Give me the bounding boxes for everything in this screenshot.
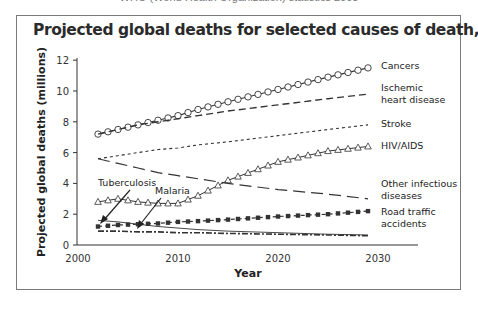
square-marker (256, 216, 260, 220)
circle-marker (245, 94, 251, 100)
x-tick-label: 2030 (365, 253, 390, 264)
square-marker (286, 214, 290, 218)
circle-marker (215, 101, 221, 107)
series-lines (95, 65, 372, 236)
triangle-marker (205, 187, 212, 193)
circle-marker (285, 84, 291, 90)
square-marker (106, 224, 110, 228)
y-tick-label: 4 (63, 178, 69, 189)
square-marker (206, 218, 210, 222)
square-marker (216, 218, 220, 222)
square-marker (266, 215, 270, 219)
y-tick-label: 10 (56, 86, 69, 97)
circle-marker (255, 91, 261, 97)
circle-marker (225, 99, 231, 105)
x-axis-label: Year (233, 267, 262, 280)
circle-marker (235, 96, 241, 102)
circle-marker (315, 76, 321, 82)
series-line (98, 146, 368, 203)
series-label: Ischemic (381, 82, 423, 93)
y-tick-label: 12 (56, 55, 69, 66)
y-tick-label: 6 (63, 148, 69, 159)
triangle-marker (195, 192, 202, 198)
tuberculosis-arrow (103, 190, 130, 221)
square-marker (326, 212, 330, 216)
triangle-marker (215, 182, 222, 188)
circle-marker (365, 65, 371, 71)
circle-marker (205, 104, 211, 110)
square-marker (316, 212, 320, 216)
line-chart: 0246810122000201020202030YearProjected g… (0, 0, 478, 312)
series-label: Cancers (381, 60, 419, 71)
y-axis-label: Projected global deaths (millions) (35, 47, 48, 257)
square-marker (246, 216, 250, 220)
series-label: heart disease (381, 94, 446, 105)
circle-marker (275, 86, 281, 92)
triangle-marker (365, 143, 372, 149)
circle-marker (195, 106, 201, 112)
circle-marker (325, 74, 331, 80)
square-marker (96, 224, 100, 228)
circle-marker (185, 109, 191, 115)
series-label: HIV/AIDS (381, 140, 423, 151)
square-marker (276, 214, 280, 218)
axes: 0246810122000201020202030YearProjected g… (35, 47, 418, 280)
square-marker (176, 220, 180, 224)
circle-marker (265, 89, 271, 95)
circle-marker (335, 72, 341, 78)
square-marker (296, 213, 300, 217)
square-marker (186, 219, 190, 223)
x-tick-label: 2010 (165, 253, 190, 264)
series-line (98, 231, 368, 236)
circle-marker (305, 79, 311, 85)
series-label: accidents (381, 218, 427, 229)
series-label: Road traffic (381, 206, 436, 217)
square-marker (336, 211, 340, 215)
y-tick-label: 8 (63, 117, 69, 128)
square-marker (356, 210, 360, 214)
square-marker (346, 210, 350, 214)
series-label: Stroke (381, 118, 411, 129)
y-tick-label: 0 (63, 240, 69, 251)
square-marker (156, 221, 160, 225)
tuberculosis-annotation: Tuberculosis (97, 177, 156, 188)
square-marker (306, 213, 310, 217)
malaria-annotation: Malaria (155, 185, 190, 196)
series-labels: CancersIschemicheart diseaseStrokeHIV/AI… (97, 60, 457, 229)
square-marker (366, 209, 370, 213)
series-label: diseases (381, 190, 422, 201)
x-tick-label: 2020 (265, 253, 290, 264)
circle-marker (145, 119, 151, 125)
circle-marker (345, 69, 351, 75)
y-tick-label: 2 (63, 209, 69, 220)
series-label: Other infectious (381, 178, 457, 189)
square-marker (236, 217, 240, 221)
square-marker (116, 223, 120, 227)
x-tick-label: 2000 (65, 253, 90, 264)
square-marker (196, 219, 200, 223)
circle-marker (295, 81, 301, 87)
circle-marker (355, 67, 361, 73)
square-marker (166, 220, 170, 224)
square-marker (226, 217, 230, 221)
